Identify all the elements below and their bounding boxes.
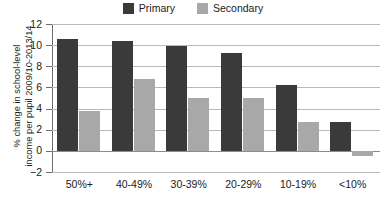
y-tick-label: 12	[2, 19, 42, 30]
bar-secondary-0	[79, 111, 100, 151]
bar-primary-1	[112, 41, 133, 151]
x-tick-label-5: <10%	[325, 178, 380, 190]
y-tick-label: 0	[2, 145, 42, 156]
legend-swatch-secondary	[197, 3, 208, 14]
y-tick-label: −2	[2, 167, 42, 178]
gridline-4	[52, 109, 380, 110]
x-tick-label-1: 40-49%	[107, 178, 162, 190]
bar-primary-0	[57, 39, 78, 151]
bar-chart-figure: Primary Secondary % change in school-lev…	[0, 0, 386, 201]
x-tick-label-4: 10-19%	[271, 178, 326, 190]
gridline-0	[52, 151, 380, 152]
bar-secondary-3	[243, 98, 264, 151]
y-tick-label: 4	[2, 103, 42, 114]
legend-entry-primary: Primary	[123, 3, 175, 14]
bar-secondary-2	[188, 98, 209, 151]
gridline-12	[52, 24, 380, 25]
legend-swatch-primary	[123, 3, 134, 14]
gridline-6	[52, 87, 380, 88]
legend-entry-secondary: Secondary	[197, 3, 263, 14]
y-tick-label: 2	[2, 124, 42, 135]
gridline-10	[52, 45, 380, 46]
x-tick-label-0: 50%+	[52, 178, 107, 190]
y-tick-label: 10	[2, 40, 42, 51]
bar-primary-5	[330, 122, 351, 151]
chart-legend: Primary Secondary	[0, 2, 386, 15]
y-tick-label: 8	[2, 61, 42, 72]
bar-secondary-1	[134, 79, 155, 151]
bar-primary-4	[276, 85, 297, 151]
legend-label-primary: Primary	[139, 3, 175, 14]
y-tick-label: 6	[2, 82, 42, 93]
x-tick-label-2: 30-39%	[161, 178, 216, 190]
x-tick-label-3: 20-29%	[216, 178, 271, 190]
bar-primary-3	[221, 53, 242, 151]
gridline-8	[52, 66, 380, 67]
bar-primary-2	[166, 46, 187, 151]
legend-label-secondary: Secondary	[213, 3, 263, 14]
gridline-−2	[52, 172, 380, 173]
bar-secondary-5	[352, 151, 373, 156]
plot-area	[52, 24, 380, 172]
bar-secondary-4	[298, 122, 319, 151]
